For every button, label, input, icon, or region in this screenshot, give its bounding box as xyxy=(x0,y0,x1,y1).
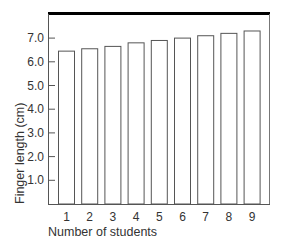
y-tick-label: 3.0 xyxy=(27,126,44,140)
x-tick-label: 7 xyxy=(202,210,209,224)
bar xyxy=(221,33,237,204)
y-tick-label: 6.0 xyxy=(27,55,44,69)
y-ticks: 1.02.03.04.05.06.07.0 xyxy=(27,31,55,187)
y-tick-label: 1.0 xyxy=(27,173,44,187)
bar xyxy=(128,43,144,204)
x-tick-label: 1 xyxy=(63,210,70,224)
y-tick-label: 4.0 xyxy=(27,102,44,116)
bar xyxy=(82,49,98,204)
bar-chart: 1.02.03.04.05.06.07.0 123456789 Number o… xyxy=(0,0,283,250)
bar xyxy=(198,36,214,204)
bar xyxy=(175,38,191,204)
x-tick-label: 8 xyxy=(226,210,233,224)
x-tick-label: 6 xyxy=(179,210,186,224)
x-tick-label: 4 xyxy=(133,210,140,224)
bar xyxy=(244,31,260,204)
x-axis-label: Number of students xyxy=(48,225,157,239)
bar xyxy=(59,51,75,204)
x-tick-label: 2 xyxy=(86,210,93,224)
plot-top-border xyxy=(48,12,270,15)
x-tick-label: 5 xyxy=(156,210,163,224)
y-axis-label: Finger length (cm) xyxy=(13,103,27,204)
x-tick-label: 3 xyxy=(110,210,117,224)
x-ticks: 123456789 xyxy=(63,210,256,224)
y-tick-label: 7.0 xyxy=(27,31,44,45)
bar xyxy=(105,46,121,204)
y-tick-label: 5.0 xyxy=(27,79,44,93)
y-tick-label: 2.0 xyxy=(27,150,44,164)
bar xyxy=(151,40,167,204)
bars xyxy=(59,31,261,204)
x-tick-label: 9 xyxy=(249,210,256,224)
